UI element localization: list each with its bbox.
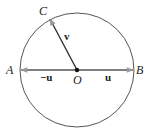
label-C: C xyxy=(39,4,48,18)
label-neg-u: −u xyxy=(40,71,52,83)
label-v: v xyxy=(64,30,70,42)
unit-circle-diagram: A B C O −u u v xyxy=(0,0,146,134)
label-O: O xyxy=(73,73,82,87)
label-B: B xyxy=(136,63,144,77)
vector-v xyxy=(50,19,77,70)
label-A: A xyxy=(5,63,14,77)
label-u: u xyxy=(105,71,111,83)
center-dot xyxy=(75,68,79,72)
